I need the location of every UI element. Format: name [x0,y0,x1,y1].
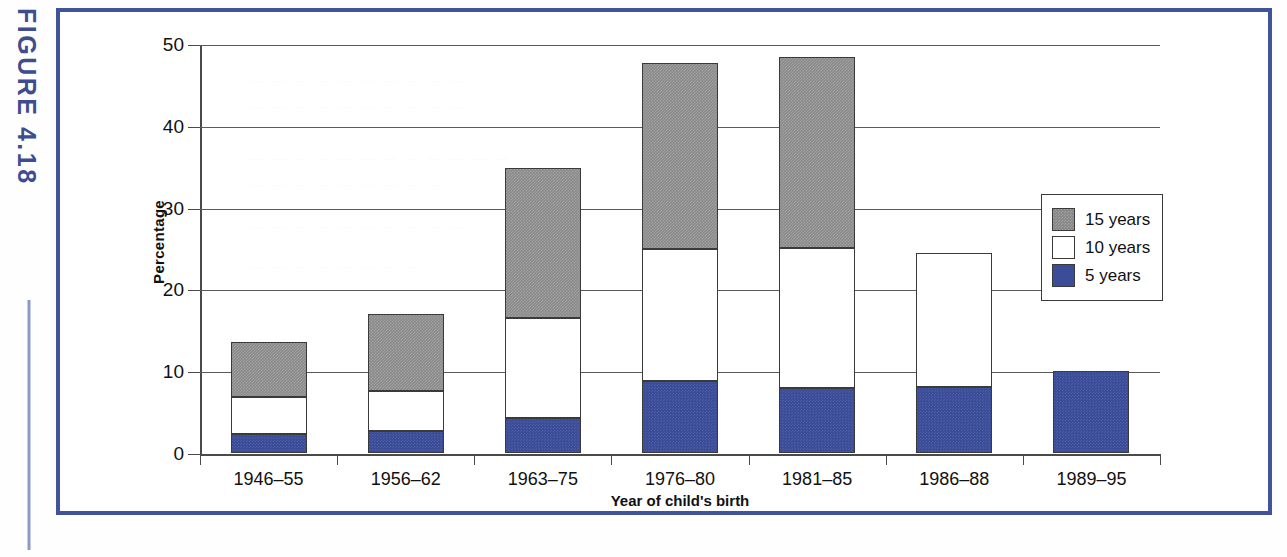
y-axis-tick [188,127,200,128]
bar-segment-5-years[interactable] [1053,371,1129,453]
bar-segment-15-years[interactable] [231,342,307,398]
bar-stack[interactable] [916,253,992,453]
x-axis-tick [611,454,612,465]
bar-stack[interactable] [779,57,855,453]
y-axis-tick [188,209,200,210]
bar-segment-5-years[interactable] [642,381,718,453]
x-axis-tick-label: 1986–88 [886,469,1023,490]
x-axis-tick [200,454,201,465]
y-axis-tick-label: 30 [138,198,184,220]
bar-segment-5-years[interactable] [231,434,307,453]
y-axis-tick-label: 10 [138,361,184,383]
legend-label-15-years: 15 years [1085,210,1150,230]
y-axis-tick-label: 0 [138,443,184,465]
legend-label-10-years: 10 years [1085,238,1150,258]
bar-segment-15-years[interactable] [505,168,581,318]
bar-segment-15-years[interactable] [368,314,444,391]
y-axis-tick-label: 50 [138,34,184,56]
chart-legend: 15 years 10 years 5 years [1041,194,1163,301]
bar-stack[interactable] [368,314,444,453]
bar-segment-10-years[interactable] [916,253,992,387]
x-axis-tick-label: 1963–75 [474,469,611,490]
bar-segment-10-years[interactable] [368,391,444,431]
x-axis-tick-label: 1976–80 [611,469,748,490]
bar-segment-5-years[interactable] [368,431,444,453]
x-axis-tick-label: 1956–62 [337,469,474,490]
x-axis-tick [474,454,475,465]
figure-page: FIGURE 4.18 — — — — — — — — — — — — — — … [0,0,1287,557]
y-axis-tick-label: 20 [138,279,184,301]
bar-segment-5-years[interactable] [505,418,581,453]
x-axis-tick [1160,454,1161,465]
figure-label: FIGURE 4.18 [0,0,54,300]
y-axis-tick [188,372,200,373]
caption-bleed-artifact [120,528,1170,544]
x-axis-title: Year of child's birth [200,492,1160,509]
y-axis-tick [188,290,200,291]
legend-item[interactable]: 5 years [1052,264,1150,287]
x-axis-tick [337,454,338,465]
bar-segment-15-years[interactable] [642,63,718,249]
bar-segment-10-years[interactable] [505,318,581,418]
y-axis-tick [188,454,200,455]
x-axis-tick [749,454,750,465]
y-axis-line [200,45,202,456]
bar-segment-10-years[interactable] [642,249,718,382]
bar-stack[interactable] [231,342,307,453]
plot-area: 01020304050 1946–551956–621963–751976–80… [200,45,1160,455]
y-axis-tick [188,45,200,46]
x-axis-tick-label: 1981–85 [749,469,886,490]
figure-label-rule [24,300,34,550]
bar-segment-5-years[interactable] [916,387,992,453]
legend-swatch-10-years [1052,236,1075,259]
bar-segment-5-years[interactable] [779,388,855,453]
x-axis-tick-label: 1946–55 [200,469,337,490]
bar-segment-15-years[interactable] [779,57,855,248]
gridline [200,45,1160,46]
legend-item[interactable]: 15 years [1052,208,1150,231]
bar-stack[interactable] [642,63,718,453]
bar-stack[interactable] [505,168,581,453]
figure-label-text: FIGURE 4.18 [12,0,41,186]
x-axis-tick [1023,454,1024,465]
x-axis-tick-label: 1989–95 [1023,469,1160,490]
x-axis-tick [886,454,887,465]
bar-segment-10-years[interactable] [779,248,855,388]
legend-swatch-5-years [1052,264,1075,287]
bar-segment-10-years[interactable] [231,397,307,434]
x-axis-line [200,454,1160,456]
legend-label-5-years: 5 years [1085,266,1141,286]
legend-swatch-15-years [1052,208,1075,231]
bar-stack[interactable] [1053,371,1129,453]
y-axis-tick-label: 40 [138,116,184,138]
legend-item[interactable]: 10 years [1052,236,1150,259]
